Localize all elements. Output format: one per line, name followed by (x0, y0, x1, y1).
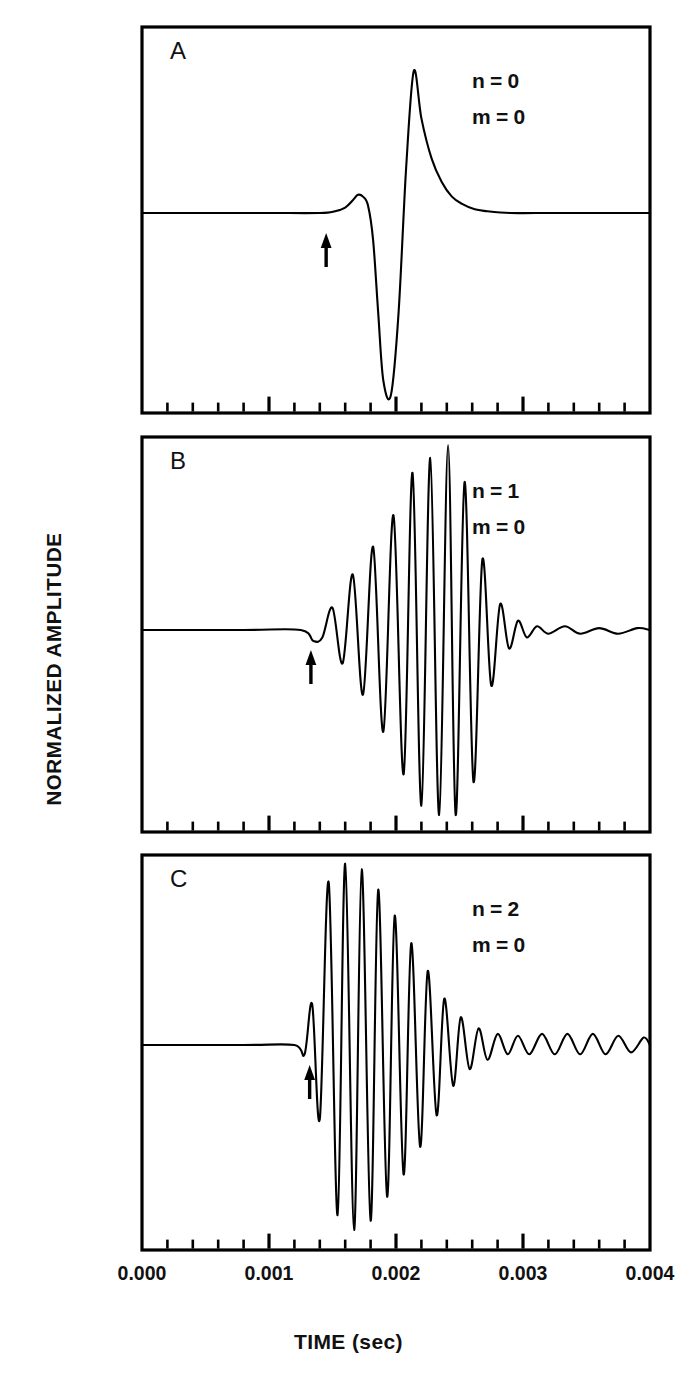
mode-label-n-b: n = 1 (472, 479, 519, 503)
x-tick-label: 0.001 (245, 1262, 294, 1285)
panel-letter-a: A (170, 37, 186, 65)
x-tick-label: 0.003 (499, 1262, 548, 1285)
mode-label-m-c: m = 0 (472, 933, 525, 957)
panel-letter-b: B (170, 447, 186, 475)
mode-label-m-b: m = 0 (472, 515, 525, 539)
x-tick-label: 0.000 (118, 1262, 167, 1285)
panel-group (142, 27, 650, 1250)
mode-label-m-a: m = 0 (472, 105, 525, 129)
x-axis-title: TIME (sec) (0, 1330, 697, 1354)
panel-frame-c (142, 855, 650, 1250)
waveform-figure: NORMALIZED AMPLITUDE 0.0000.0010.0020.00… (0, 0, 697, 1388)
x-tick-label: 0.004 (626, 1262, 675, 1285)
plot-area (0, 0, 697, 1320)
y-axis-title: NORMALIZED AMPLITUDE (42, 369, 66, 969)
x-tick-label: 0.002 (372, 1262, 421, 1285)
mode-label-n-c: n = 2 (472, 897, 519, 921)
panel-frame-b (142, 437, 650, 832)
mode-label-n-a: n = 0 (472, 69, 519, 93)
panel-letter-c: C (170, 865, 187, 893)
